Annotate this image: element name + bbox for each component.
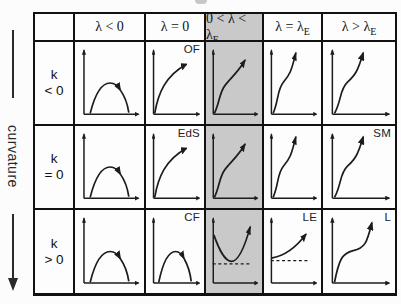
cropped-caption-artifact: [195, 0, 207, 4]
row-label-sign: < 0: [44, 83, 63, 99]
model-cell-r0c2: [206, 42, 262, 124]
model-cell-r2c1: CF: [146, 210, 204, 293]
model-cell-r1c0: [75, 126, 144, 208]
model-cell-r0c0: [75, 42, 144, 124]
row-label-sign: = 0: [44, 167, 63, 183]
scale-factor-curve: [214, 60, 245, 113]
scale-factor-curve: [273, 137, 296, 198]
row-label-k: k: [51, 67, 58, 83]
scale-factor-plot-accelerating: [264, 126, 321, 208]
model-tag: EdS: [178, 127, 200, 139]
scale-factor-curve: [335, 222, 372, 282]
column-header-5: λ > λE: [323, 14, 395, 40]
column-header-2: λ = 0: [146, 14, 204, 40]
subscript: E: [370, 26, 376, 37]
corner-cell: [35, 14, 73, 40]
scale-factor-curve: [121, 174, 129, 196]
model-tag: L: [384, 211, 391, 223]
scale-factor-plot-inflection: [206, 42, 262, 124]
column-header-label: 0 < λ < λE: [206, 14, 262, 40]
scale-factor-plot-accelerating: [264, 42, 321, 124]
scale-factor-plot-recollapse: [75, 126, 144, 208]
model-cell-r1c2: [206, 126, 262, 208]
model-cell-r0c3: [264, 42, 321, 124]
model-cell-r1c4: SM: [323, 126, 395, 208]
scale-factor-curve: [90, 83, 120, 113]
scale-factor-curve: [273, 53, 296, 114]
curvature-axis-line-bottom: [12, 214, 14, 280]
row-header-0: k< 0: [35, 42, 73, 124]
curvature-axis: curvature: [0, 0, 30, 304]
row-label-k: k: [51, 151, 58, 167]
scale-factor-curve: [335, 137, 364, 198]
scale-factor-curve: [121, 259, 129, 281]
scale-factor-curve: [271, 234, 306, 258]
scale-factor-plot-bounce: [206, 210, 262, 293]
scale-factor-curve: [214, 227, 250, 262]
row-header-1: k= 0: [35, 126, 73, 208]
scale-factor-plot-inflection: [206, 126, 262, 208]
row-label-sign: > 0: [44, 252, 63, 268]
model-cell-r2c2: [206, 210, 262, 293]
scale-factor-plot-accelerating: [323, 42, 395, 124]
model-cell-r0c4: [323, 42, 395, 124]
scale-factor-curve: [155, 64, 187, 113]
model-cell-r1c3: [264, 126, 321, 208]
scale-factor-curve: [214, 144, 245, 197]
column-header-label: λ = λE: [275, 19, 310, 35]
row-label-k: k: [51, 236, 58, 252]
subscript: E: [304, 26, 310, 37]
row-header-2: k> 0: [35, 210, 73, 293]
model-cell-r2c4: L: [323, 210, 395, 293]
scale-factor-curve: [159, 252, 185, 283]
model-cell-r2c0: [75, 210, 144, 293]
model-tag: CF: [184, 211, 200, 223]
model-cell-r2c3: LE: [264, 210, 321, 293]
scale-factor-curve: [121, 90, 129, 112]
column-header-label: λ = 0: [161, 19, 190, 35]
model-tag: OF: [184, 43, 200, 55]
column-header-3: 0 < λ < λE: [206, 14, 262, 40]
column-header-4: λ = λE: [264, 14, 321, 40]
column-header-label: λ > λE: [342, 19, 377, 35]
scale-factor-plot-recollapse: [75, 42, 144, 124]
model-tag: LE: [303, 211, 317, 223]
down-arrow-icon: [8, 278, 18, 291]
scale-factor-curve: [335, 53, 364, 114]
scale-factor-curve: [90, 252, 120, 283]
curvature-axis-label: curvature: [3, 100, 23, 212]
scale-factor-curve: [90, 167, 120, 197]
model-cell-r1c1: EdS: [146, 126, 204, 208]
model-cell-r0c1: OF: [146, 42, 204, 124]
subscript: E: [213, 34, 219, 40]
scale-factor-plot-recollapse: [75, 210, 144, 293]
column-header-1: λ < 0: [75, 14, 144, 40]
scale-factor-curve: [155, 148, 187, 197]
column-header-label: λ < 0: [95, 19, 124, 35]
model-table: λ < 0λ = 00 < λ < λEλ = λEλ > λEk< 0OFk=…: [33, 12, 397, 296]
scale-factor-curve: [184, 259, 191, 281]
cosmology-models-figure: curvature λ < 0λ = 00 < λ < λEλ = λEλ > …: [0, 0, 401, 304]
curvature-axis-line-top: [12, 30, 14, 98]
model-tag: SM: [373, 127, 391, 139]
